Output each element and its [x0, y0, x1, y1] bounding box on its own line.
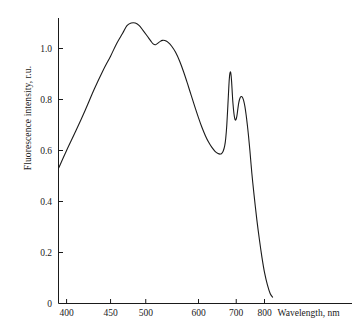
y-tick-label-0.4: 0.4	[24, 197, 52, 207]
x-tick-label-400: 400	[59, 308, 73, 318]
x-tick-label-600: 600	[191, 308, 205, 318]
x-tick-label-450: 450	[103, 308, 117, 318]
x-tick-label-800: 800	[257, 308, 271, 318]
y-tick-label-0: 0	[24, 299, 52, 309]
x-tick-label-700: 700	[229, 308, 243, 318]
y-tick-label-0.6: 0.6	[24, 146, 52, 156]
y-axis-ticks	[59, 49, 64, 253]
spectrum-curve	[59, 23, 273, 297]
y-tick-label-1.0: 1.0	[24, 44, 52, 54]
y-tick-label-0.8: 0.8	[24, 95, 52, 105]
x-axis-ticks	[67, 299, 265, 304]
y-tick-label-0.2: 0.2	[24, 248, 52, 258]
x-axis-title: Wavelength, nm	[278, 308, 340, 318]
x-tick-label-500: 500	[139, 308, 153, 318]
spectrum-plot-area	[0, 0, 363, 329]
axis-lines	[59, 18, 353, 304]
fluorescence-spectrum-figure: Fluorescence intensity, r.u. 40045050060…	[0, 0, 363, 329]
